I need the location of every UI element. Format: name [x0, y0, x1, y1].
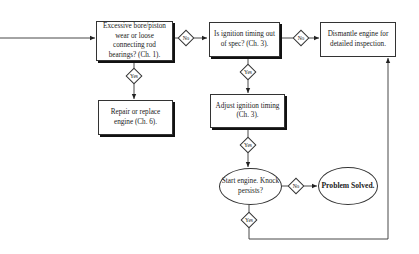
decision-timing-no: No: [292, 29, 310, 47]
decision-label: No: [292, 29, 310, 47]
node-label: Adjust ignition timing (Ch. 3).: [215, 102, 280, 121]
decision-label: Yes: [239, 136, 257, 154]
decision-bore-yes: Yes: [125, 67, 143, 85]
node-label: Repair or replace engine (Ch. 6).: [103, 108, 168, 127]
node-label: Start engine. Knock persists?: [220, 177, 281, 196]
node-dismantle-engine: Dismantle engine for detailed inspection…: [320, 22, 396, 57]
decision-adjust-yes: Yes: [239, 136, 257, 154]
decision-knock-yes: Yes: [240, 211, 258, 229]
node-start-engine-question: Start engine. Knock persists?: [219, 168, 282, 205]
node-problem-solved: Problem Solved.: [318, 167, 378, 205]
decision-timing-yes: Yes: [239, 63, 257, 81]
decision-label: No: [177, 29, 195, 47]
decision-bore-no: No: [177, 29, 195, 47]
node-label: Problem Solved.: [321, 181, 374, 191]
node-adjust-ignition-timing: Adjust ignition timing (Ch. 3).: [210, 94, 285, 128]
node-bore-wear-question: Excessive bore/piston wear or loose conn…: [96, 21, 173, 61]
decision-label: Yes: [239, 63, 257, 81]
decision-label: Yes: [240, 211, 258, 229]
decision-knock-no: No: [287, 177, 305, 195]
node-ignition-timing-question: Is ignition timing out of spec? (Ch. 3).: [209, 22, 280, 57]
node-repair-engine: Repair or replace engine (Ch. 6).: [98, 100, 173, 135]
decision-label: No: [287, 177, 305, 195]
node-label: Excessive bore/piston wear or loose conn…: [101, 22, 168, 60]
decision-label: Yes: [125, 67, 143, 85]
node-label: Is ignition timing out of spec? (Ch. 3).: [214, 30, 275, 49]
node-label: Dismantle engine for detailed inspection…: [325, 30, 391, 49]
